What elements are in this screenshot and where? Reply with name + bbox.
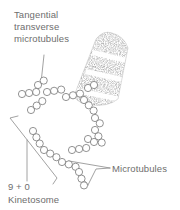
microtubule-group — [27, 98, 46, 114]
microtubule-group — [40, 146, 60, 160]
microtubule-group — [91, 114, 103, 127]
microtubule-group — [58, 158, 79, 170]
microtubule-group — [18, 88, 39, 97]
kinetosome-label: Kinetosome — [8, 194, 59, 205]
microtubule-group — [43, 86, 64, 96]
microtubule-group — [75, 168, 87, 189]
microtubule-group — [29, 127, 43, 147]
kinetosome-diagram: Tangential transverse microtubules Micro… — [0, 0, 180, 210]
tangential-label-line-3: microtubules — [14, 33, 69, 44]
microtubule-group — [34, 77, 47, 89]
tangential-label-line-2: transverse — [14, 21, 59, 32]
nine-plus-zero-label: 9 + 0 — [8, 181, 30, 192]
label-tangential-transverse-microtubules: Tangential transverse microtubules — [14, 9, 69, 44]
axostyle-cone — [70, 28, 134, 110]
tangential-label-line-1: Tangential — [14, 9, 58, 20]
figure-canvas: Tangential transverse microtubules Micro… — [0, 0, 180, 210]
microtubules-label: Microtubules — [112, 163, 167, 174]
microtubule-group — [68, 144, 89, 153]
